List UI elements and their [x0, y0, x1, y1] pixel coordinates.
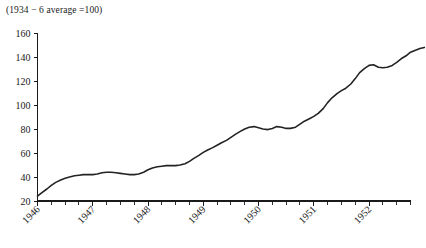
y-axis-ticks [34, 33, 38, 201]
x-tick-label: 1948 [131, 204, 153, 226]
x-axis-labels: 1946194719481949195019511952 [20, 204, 373, 226]
x-tick-label: 1952 [352, 204, 374, 226]
x-tick-label: 1946 [20, 204, 42, 226]
y-tick-label: 20 [21, 196, 31, 207]
data-series-line [38, 47, 425, 196]
y-tick-label: 140 [16, 52, 31, 63]
y-tick-label: 60 [21, 148, 31, 159]
y-tick-label: 160 [16, 28, 31, 39]
x-tick-label: 1947 [75, 204, 97, 226]
chart-container: (1934 − 6 average =100) 2040608010012014… [0, 0, 426, 248]
y-tick-label: 100 [16, 100, 31, 111]
x-tick-label: 1949 [186, 204, 208, 226]
y-tick-label: 40 [21, 172, 31, 183]
x-tick-label: 1951 [296, 204, 318, 226]
line-chart-plot: 20406080100120140160 1946194719481949195… [0, 0, 426, 248]
axis-spine [38, 33, 411, 201]
x-axis-ticks [38, 201, 411, 206]
y-axis-labels: 20406080100120140160 [16, 28, 31, 207]
y-tick-label: 80 [21, 124, 31, 135]
y-tick-label: 120 [16, 76, 31, 87]
x-tick-label: 1950 [241, 204, 263, 226]
